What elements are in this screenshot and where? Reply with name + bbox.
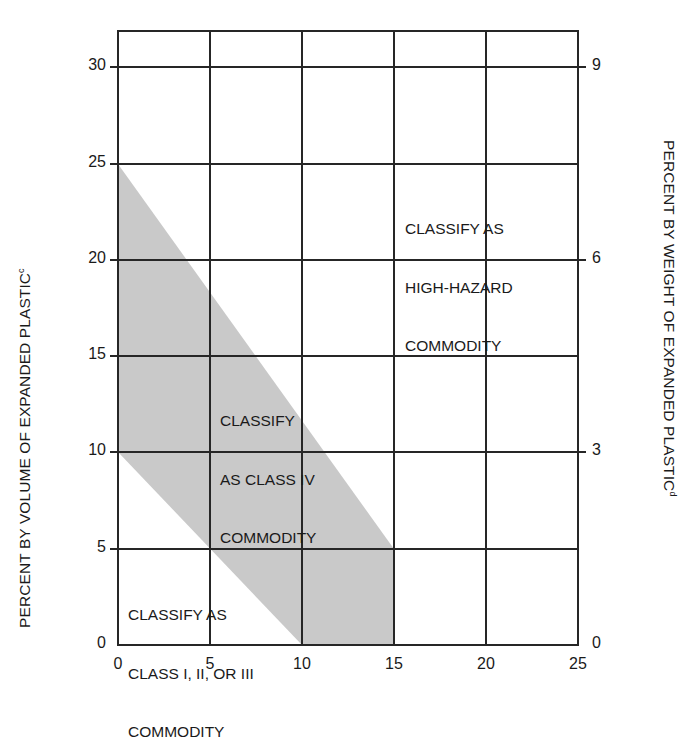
right-axis-title-text: PERCENT BY WEIGHT OF EXPANDED PLASTIC xyxy=(661,140,678,491)
annotation-class-iv-line-1: CLASSIFY xyxy=(220,411,316,431)
annotation-class-i-ii-iii-line-3: COMMODITY xyxy=(128,722,254,741)
left-axis-title-text: PERCENT BY VOLUME OF EXPANDED PLASTIC xyxy=(16,273,33,628)
left-tick-label-10: 10 xyxy=(62,441,106,459)
left-axis-title-superscript: c xyxy=(16,268,26,273)
left-tick-label-15: 15 xyxy=(62,345,106,363)
annotation-high-hazard-commodity: CLASSIFY AS HIGH-HAZARD COMMODITY xyxy=(405,180,513,395)
annotation-high-hazard-line-2: HIGH-HAZARD xyxy=(405,278,513,298)
right-axis-title: PERCENT BY WEIGHT OF EXPANDED PLASTICd xyxy=(656,140,678,700)
bottom-tick-label-15: 15 xyxy=(374,655,414,673)
left-tick-label-0: 0 xyxy=(62,634,106,652)
left-tick-label-25: 25 xyxy=(62,153,106,171)
annotation-class-i-ii-iii-line-1: CLASSIFY AS xyxy=(128,605,254,625)
left-tick-label-20: 20 xyxy=(62,249,106,267)
annotation-class-iv-line-2: AS CLASS IV xyxy=(220,470,316,490)
annotation-high-hazard-line-3: COMMODITY xyxy=(405,336,513,356)
annotation-class-iv-commodity: CLASSIFY AS CLASS IV COMMODITY xyxy=(220,372,316,587)
annotation-high-hazard-line-1: CLASSIFY AS xyxy=(405,219,513,239)
bottom-tick-label-25: 25 xyxy=(558,655,598,673)
bottom-tick-label-10: 10 xyxy=(282,655,322,673)
annotation-class-i-ii-iii-commodity: CLASSIFY AS CLASS I, II, OR III COMMODIT… xyxy=(128,566,254,741)
right-tick-label-0: 0 xyxy=(592,634,632,652)
left-tick-label-5: 5 xyxy=(62,538,106,556)
left-axis-title: PERCENT BY VOLUME OF EXPANDED PLASTICc xyxy=(16,8,38,628)
right-tick-label-9: 9 xyxy=(592,56,632,74)
annotation-class-i-ii-iii-line-2: CLASS I, II, OR III xyxy=(128,664,254,684)
annotation-class-iv-line-3: COMMODITY xyxy=(220,528,316,548)
right-axis-title-superscript: d xyxy=(668,491,678,496)
right-tick-label-3: 3 xyxy=(592,441,632,459)
right-tick-label-6: 6 xyxy=(592,249,632,267)
left-tick-label-30: 30 xyxy=(62,56,106,74)
bottom-tick-label-20: 20 xyxy=(466,655,506,673)
